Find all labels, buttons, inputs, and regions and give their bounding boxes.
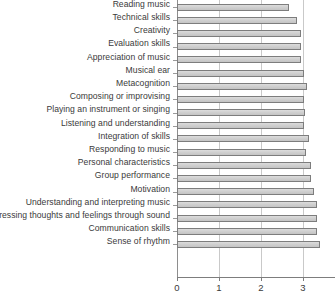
bar — [177, 175, 311, 182]
bar — [177, 162, 311, 169]
bar-row — [177, 172, 335, 185]
x-tick-mark — [303, 277, 304, 281]
category-tick — [173, 113, 177, 114]
category-tick — [173, 86, 177, 87]
plot-area — [177, 0, 335, 277]
category-label: Expressing thoughts and feelings through… — [0, 209, 170, 222]
bar — [177, 122, 304, 129]
bar — [177, 188, 314, 195]
category-label: Reading music — [113, 0, 170, 11]
category-tick — [173, 47, 177, 48]
category-label: Communication skills — [88, 222, 170, 235]
category-label: Metacognition — [116, 77, 170, 90]
category-label: Appreciation of music — [87, 51, 170, 64]
category-label: Playing an instrument or singing — [46, 103, 170, 116]
category-label: Creativity — [134, 24, 170, 37]
category-tick — [173, 218, 177, 219]
category-label: Sense of rhythm — [107, 235, 170, 248]
x-tick-mark — [219, 277, 220, 281]
bar — [177, 4, 289, 11]
category-label: Motivation — [130, 183, 170, 196]
category-label: Personal characteristics — [78, 156, 170, 169]
bar-row — [177, 80, 335, 93]
category-tick — [173, 139, 177, 140]
bar-row — [177, 185, 335, 198]
bar-row — [177, 14, 335, 27]
category-tick — [173, 192, 177, 193]
bar — [177, 201, 317, 208]
bar — [177, 56, 301, 63]
bar — [177, 17, 297, 24]
bar-row — [177, 40, 335, 53]
bar-row — [177, 119, 335, 132]
bar — [177, 70, 304, 77]
bar — [177, 149, 306, 156]
x-axis-ticks: 0123 — [0, 277, 335, 293]
category-axis-labels: Reading musicTechnical skillsCreativityE… — [0, 0, 174, 277]
x-tick-mark — [177, 277, 178, 281]
bar-row — [177, 27, 335, 40]
bar-chart: Reading musicTechnical skillsCreativityE… — [0, 0, 335, 293]
category-tick — [173, 60, 177, 61]
bar — [177, 96, 304, 103]
category-tick — [173, 73, 177, 74]
bar-row — [177, 132, 335, 145]
bar-series — [177, 0, 335, 277]
x-tick-label: 2 — [258, 282, 263, 293]
category-tick — [173, 20, 177, 21]
x-tick-label: 0 — [174, 282, 179, 293]
bar-row — [177, 66, 335, 79]
x-tick-label: 3 — [300, 282, 305, 293]
bar — [177, 83, 307, 90]
category-label: Understanding and interpreting music — [26, 196, 170, 209]
bar-row — [177, 53, 335, 66]
category-tick — [173, 165, 177, 166]
bar-row — [177, 93, 335, 106]
bar-row — [177, 225, 335, 238]
bar — [177, 30, 301, 37]
category-tick — [173, 126, 177, 127]
bar — [177, 135, 309, 142]
x-tick-label: 1 — [216, 282, 221, 293]
bar-row — [177, 146, 335, 159]
category-label: Evaluation skills — [108, 37, 170, 50]
x-tick-mark — [261, 277, 262, 281]
bar-row — [177, 1, 335, 14]
category-tick — [173, 231, 177, 232]
category-tick — [173, 7, 177, 8]
bar-row — [177, 198, 335, 211]
category-label: Responding to music — [89, 143, 170, 156]
category-tick — [173, 205, 177, 206]
category-label: Integration of skills — [98, 130, 170, 143]
category-label: Composing or improvising — [70, 90, 170, 103]
category-tick — [173, 178, 177, 179]
category-tick — [173, 33, 177, 34]
bar — [177, 43, 301, 50]
category-tick — [173, 244, 177, 245]
bar — [177, 228, 317, 235]
bar-row — [177, 212, 335, 225]
bar — [177, 109, 305, 116]
category-label: Musical ear — [126, 64, 170, 77]
bar — [177, 215, 317, 222]
category-tick — [173, 152, 177, 153]
category-label: Group performance — [95, 169, 170, 182]
bar-row — [177, 159, 335, 172]
bar — [177, 241, 320, 248]
category-label: Technical skills — [113, 11, 170, 24]
bar-row — [177, 106, 335, 119]
category-tick — [173, 99, 177, 100]
bar-row — [177, 238, 335, 251]
category-label: Listening and understanding — [61, 117, 170, 130]
